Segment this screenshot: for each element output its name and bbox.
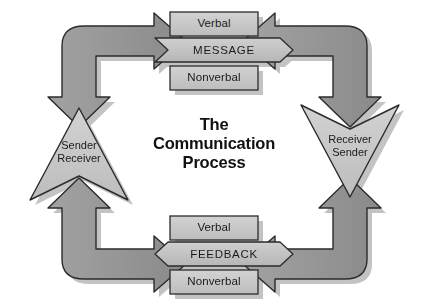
feedback-band-arrow (155, 242, 293, 266)
message-nonverbal-box (170, 66, 258, 90)
feedback-verbal-box (170, 216, 258, 240)
communication-process-diagram: Verbal MESSAGE Nonverbal Verbal FEEDBACK… (0, 0, 427, 307)
feedback-nonverbal-box (170, 270, 258, 294)
message-band-arrow (155, 38, 293, 62)
message-verbal-box (170, 12, 258, 36)
diagram-canvas (0, 0, 427, 307)
connector-bottom-right-elbow (243, 178, 381, 292)
connector-top-left-elbow (48, 13, 186, 127)
